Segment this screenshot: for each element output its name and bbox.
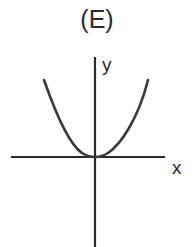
graph (0, 0, 194, 247)
x-axis-label: x (172, 158, 182, 178)
y-axis-label: y (102, 55, 112, 75)
